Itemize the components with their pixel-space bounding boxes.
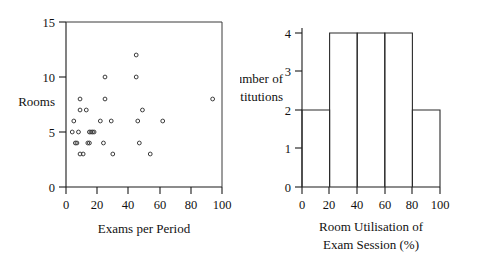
- histogram-y-axis-title-line1: Number of: [240, 71, 284, 86]
- scatter-point: [141, 108, 145, 112]
- histogram-bar: [412, 110, 440, 187]
- histogram-x-axis-title-line2: Exam Session (%): [323, 237, 419, 252]
- scatter-x-label-0: 0: [63, 198, 69, 212]
- scatter-x-label-60: 60: [154, 198, 167, 212]
- scatter-x-axis-title: Exams per Period: [98, 221, 191, 236]
- scatter-x-tick-labels: 0 20 40 60 80 100: [63, 198, 232, 212]
- scatter-point: [103, 97, 107, 101]
- histogram-bar: [357, 33, 385, 187]
- scatter-point: [137, 141, 141, 145]
- scatter-point: [134, 75, 138, 79]
- histogram-y-label-3: 3: [285, 65, 291, 79]
- scatter-point: [148, 152, 152, 156]
- histogram-bar: [302, 110, 330, 187]
- histogram-y-tick-labels: 4 3 2 1 0: [285, 27, 292, 195]
- scatter-point: [78, 108, 82, 112]
- histogram-y-label-4: 4: [285, 27, 292, 41]
- scatter-point: [98, 119, 102, 123]
- scatter-point: [72, 119, 76, 123]
- scatter-y-axis-title: Rooms: [18, 94, 55, 109]
- histogram-axes: [302, 28, 440, 187]
- scatter-point: [84, 108, 88, 112]
- scatter-y-label-0: 0: [49, 181, 55, 195]
- scatter-y-label-5: 5: [49, 126, 55, 140]
- histogram-panel: 4 3 2 1 0 Number of Institutions 0: [240, 0, 481, 263]
- scatter-point: [111, 152, 115, 156]
- histogram-x-label-40: 40: [351, 198, 364, 212]
- histogram-x-axis-title: Room Utilisation of Exam Session (%): [319, 219, 424, 252]
- histogram-bar: [330, 33, 358, 187]
- histogram-x-label-0: 0: [299, 198, 305, 212]
- histogram-y-axis-title: Number of Institutions: [240, 71, 284, 104]
- histogram-y-axis-title-line2: Institutions: [240, 89, 283, 104]
- scatter-x-label-80: 80: [185, 198, 198, 212]
- scatter-plot-svg: 15 10 5 0 Rooms 0 20 40 60 80 100: [0, 0, 240, 263]
- scatter-point: [134, 53, 138, 57]
- scatter-point: [109, 119, 113, 123]
- histogram-y-label-0: 0: [285, 181, 291, 195]
- histogram-x-label-100: 100: [431, 198, 450, 212]
- scatter-point: [211, 97, 215, 101]
- figure-container: 15 10 5 0 Rooms 0 20 40 60 80 100: [0, 0, 481, 263]
- scatter-point: [78, 97, 82, 101]
- histogram-y-label-2: 2: [285, 104, 291, 118]
- histogram-x-ticks: [302, 187, 440, 194]
- histogram-svg: 4 3 2 1 0 Number of Institutions 0: [240, 0, 481, 263]
- scatter-x-label-20: 20: [91, 198, 104, 212]
- scatter-x-label-100: 100: [213, 198, 232, 212]
- scatter-point: [70, 130, 74, 134]
- scatter-point: [136, 119, 140, 123]
- scatter-x-label-40: 40: [122, 198, 135, 212]
- scatter-point: [77, 130, 81, 134]
- scatter-axes: [66, 22, 222, 187]
- scatter-point: [102, 141, 106, 145]
- scatter-point-group: [70, 53, 214, 156]
- scatter-point: [161, 119, 165, 123]
- scatter-y-ticks: [59, 22, 66, 187]
- histogram-bar: [385, 33, 413, 187]
- scatter-x-ticks: [66, 187, 222, 194]
- scatter-plot-panel: 15 10 5 0 Rooms 0 20 40 60 80 100: [0, 0, 240, 263]
- scatter-point: [103, 75, 107, 79]
- histogram-y-ticks: [295, 33, 302, 187]
- histogram-x-label-80: 80: [406, 198, 419, 212]
- histogram-x-label-20: 20: [323, 198, 336, 212]
- histogram-bar-group: [302, 33, 440, 187]
- scatter-y-label-15: 15: [43, 16, 56, 30]
- histogram-y-label-1: 1: [285, 142, 291, 156]
- scatter-y-label-10: 10: [43, 71, 56, 85]
- histogram-x-axis-title-line1: Room Utilisation of: [319, 219, 424, 234]
- histogram-x-tick-labels: 0 20 40 60 80 100: [299, 198, 450, 212]
- histogram-x-label-60: 60: [379, 198, 392, 212]
